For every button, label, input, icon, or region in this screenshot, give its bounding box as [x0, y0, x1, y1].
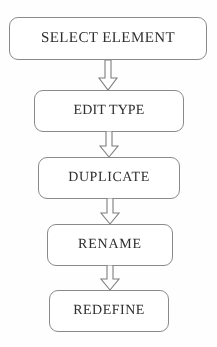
- flowchart-diagram: SELECT ELEMENT EDIT TYPE DUPLICATE RENAM…: [0, 0, 217, 347]
- down-arrow-icon: [99, 265, 121, 291]
- down-arrow-icon: [99, 198, 121, 225]
- flowchart-node-redefine: REDEFINE: [49, 290, 169, 332]
- flowchart-node-duplicate: DUPLICATE: [38, 157, 180, 199]
- flowchart-node-label: SELECT ELEMENT: [41, 31, 175, 46]
- flowchart-node-edit-type: EDIT TYPE: [34, 90, 184, 132]
- flowchart-node-select-element: SELECT ELEMENT: [9, 17, 207, 60]
- flowchart-node-label: RENAME: [78, 238, 142, 252]
- flowchart-node-label: REDEFINE: [73, 304, 145, 318]
- flowchart-node-rename: RENAME: [47, 224, 173, 266]
- down-arrow-icon: [97, 60, 119, 91]
- flowchart-node-label: EDIT TYPE: [74, 104, 145, 118]
- flowchart-node-label: DUPLICATE: [68, 171, 150, 185]
- down-arrow-icon: [98, 131, 120, 158]
